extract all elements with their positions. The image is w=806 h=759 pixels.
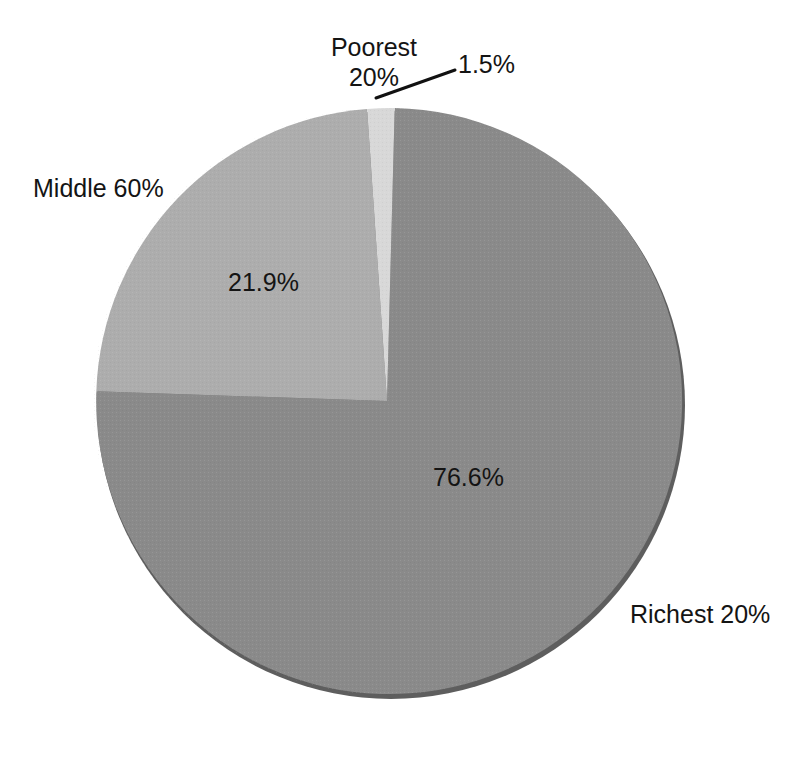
pie-texture-overlay: [90, 100, 696, 706]
slice-label-middle: Middle 60%: [33, 174, 164, 204]
slice-value-middle: 21.9%: [228, 268, 299, 298]
slice-label-poorest-line1: Poorest: [331, 33, 417, 61]
slice-label-poorest: Poorest20%: [304, 33, 444, 92]
slice-label-richest: Richest 20%: [630, 600, 770, 630]
slice-label-poorest-line2: 20%: [349, 63, 399, 91]
pie-chart-graphic: [0, 0, 806, 759]
pie-chart: Poorest20% 1.5% Middle 60% 21.9% Richest…: [0, 0, 806, 759]
slice-value-poorest: 1.5%: [458, 50, 515, 80]
slice-value-richest: 76.6%: [433, 463, 504, 493]
